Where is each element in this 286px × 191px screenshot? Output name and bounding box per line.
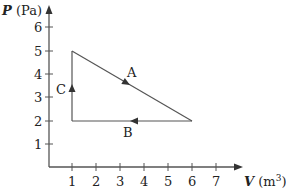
y-ticks: 1 2 3 4 5 6: [34, 20, 53, 152]
x-axis-arrow-icon: [234, 164, 243, 171]
x-tick-label: 1: [68, 174, 76, 189]
path-b-label: B: [123, 125, 133, 140]
pv-diagram: 1 2 3 4 5 6 1 2 3 4 5 6 7 P (Pa) V (m3) …: [0, 0, 286, 191]
x-axis-title: V (m3): [244, 173, 286, 189]
path-b-arrow-icon: [130, 118, 138, 125]
x-tick-label: 7: [212, 174, 220, 189]
x-tick-label: 3: [116, 174, 124, 189]
y-tick-label: 1: [34, 137, 42, 152]
y-tick-label: 2: [34, 114, 42, 129]
path-a-label: A: [126, 65, 137, 80]
y-axis-arrow-icon: [46, 5, 53, 14]
y-tick-label: 3: [34, 90, 42, 105]
x-tick-label: 2: [92, 174, 100, 189]
x-tick-label: 4: [140, 174, 148, 189]
y-axis-title: P (Pa): [1, 3, 42, 18]
diagram-canvas: 1 2 3 4 5 6 1 2 3 4 5 6 7 P (Pa) V (m3) …: [0, 0, 286, 191]
x-tick-label: 6: [188, 174, 196, 189]
path-a: [72, 51, 192, 121]
path-c-arrow-icon: [69, 84, 76, 92]
y-tick-label: 6: [34, 20, 42, 35]
x-tick-label: 5: [164, 174, 172, 189]
path-c-label: C: [56, 82, 66, 97]
y-tick-label: 4: [34, 67, 42, 82]
y-tick-label: 5: [34, 44, 42, 59]
